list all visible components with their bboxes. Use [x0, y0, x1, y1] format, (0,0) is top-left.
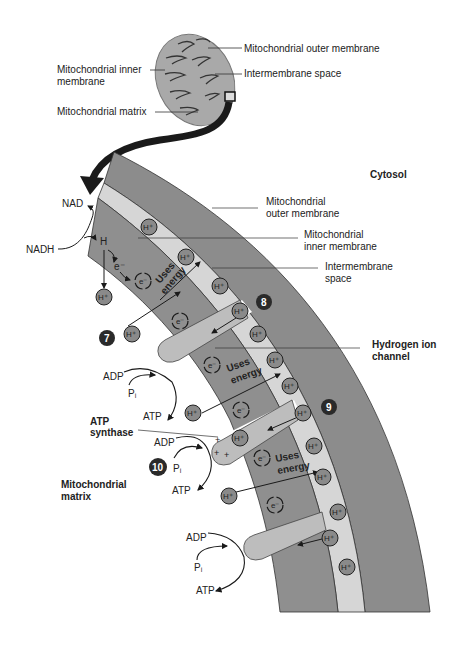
electron-transport-diagram: Mitochondrial outer membrane Intermembra… [0, 0, 464, 655]
svg-text:e⁻: e⁻ [271, 501, 279, 510]
zoom-box [225, 92, 235, 101]
svg-text:ADP: ADP [154, 437, 175, 448]
label-atp-synthase-2: synthase [90, 427, 134, 438]
h-label: H [100, 236, 107, 247]
svg-text:H⁺: H⁺ [98, 293, 108, 302]
step-9-badge: 9 [321, 399, 337, 415]
svg-text:e⁻: e⁻ [176, 317, 184, 326]
svg-text:ATP: ATP [172, 485, 191, 496]
svg-text:H⁺: H⁺ [223, 492, 233, 501]
electron-label-1: e⁻ [114, 261, 125, 272]
svg-text:Pᵢ: Pᵢ [173, 463, 182, 474]
svg-text:ADP: ADP [103, 371, 124, 382]
label-matrix-small: Mitochondrial matrix [57, 106, 146, 117]
label-intermembrane-small: Intermembrane space [244, 68, 342, 79]
svg-text:e⁻: e⁻ [237, 406, 245, 415]
atp-synthesis-1: ADP Pᵢ ATP [103, 369, 176, 422]
mitochondrion-illustration [141, 21, 250, 138]
label-outer-membrane-2: outer membrane [266, 208, 340, 219]
svg-text:+: + [224, 450, 229, 460]
svg-text:H⁺: H⁺ [308, 442, 318, 451]
svg-text:H⁺: H⁺ [234, 434, 244, 443]
svg-text:e⁻: e⁻ [208, 361, 216, 370]
svg-text:Pᵢ: Pᵢ [194, 562, 203, 573]
svg-text:Pᵢ: Pᵢ [128, 388, 137, 399]
label-inner-membrane-small-1: Mitochondrial inner [57, 64, 142, 75]
label-hydrogen-channel-2: channel [372, 351, 410, 362]
svg-text:H⁺: H⁺ [284, 382, 294, 391]
svg-text:H⁺: H⁺ [324, 534, 334, 543]
svg-text:H⁺: H⁺ [187, 409, 197, 418]
svg-text:7: 7 [104, 333, 110, 344]
nad-label: NAD [62, 198, 83, 209]
atp-synthesis-3: ADP Pᵢ ATP [186, 532, 244, 596]
svg-text:H⁺: H⁺ [143, 223, 153, 232]
svg-text:H⁺: H⁺ [234, 307, 244, 316]
svg-text:+: + [215, 435, 220, 445]
label-matrix-2: matrix [61, 491, 91, 502]
svg-text:H⁺: H⁺ [317, 473, 327, 482]
svg-text:9: 9 [326, 402, 332, 413]
step-8-badge: 8 [256, 294, 272, 310]
svg-text:+: + [214, 448, 219, 458]
label-cytosol: Cytosol [370, 169, 407, 180]
step-7-badge: 7 [99, 330, 115, 346]
label-inner-membrane-small-2: membrane [57, 76, 105, 87]
svg-text:H⁺: H⁺ [269, 356, 279, 365]
svg-text:ADP: ADP [186, 532, 207, 543]
svg-text:H⁺: H⁺ [341, 563, 351, 572]
label-outer-membrane-small: Mitochondrial outer membrane [244, 43, 380, 54]
label-matrix-1: Mitochondrial [61, 479, 127, 490]
label-atp-synthase-1: ATP [90, 416, 110, 427]
svg-text:H⁺: H⁺ [180, 253, 190, 262]
svg-text:10: 10 [152, 462, 164, 473]
label-intermembrane-2: space [325, 273, 352, 284]
label-outer-membrane-1: Mitochondrial [266, 196, 325, 207]
svg-text:H⁺: H⁺ [297, 409, 307, 418]
svg-text:ATP: ATP [196, 585, 215, 596]
label-inner-membrane-1: Mitochondrial [304, 229, 363, 240]
svg-text:8: 8 [261, 297, 267, 308]
label-hydrogen-channel-1: Hydrogen ion [372, 339, 436, 350]
svg-text:H⁺: H⁺ [332, 508, 342, 517]
svg-text:e⁻: e⁻ [258, 454, 266, 463]
svg-text:H⁺: H⁺ [126, 330, 136, 339]
svg-text:e⁻: e⁻ [139, 277, 147, 286]
svg-text:ATP: ATP [143, 411, 162, 422]
step-10-badge: 10 [149, 458, 167, 476]
svg-text:H⁺: H⁺ [214, 282, 224, 291]
label-inner-membrane-2: inner membrane [304, 241, 377, 252]
svg-text:H⁺: H⁺ [252, 330, 262, 339]
label-intermembrane-1: Intermembrane [325, 261, 393, 272]
nadh-label: NADH [26, 244, 54, 255]
